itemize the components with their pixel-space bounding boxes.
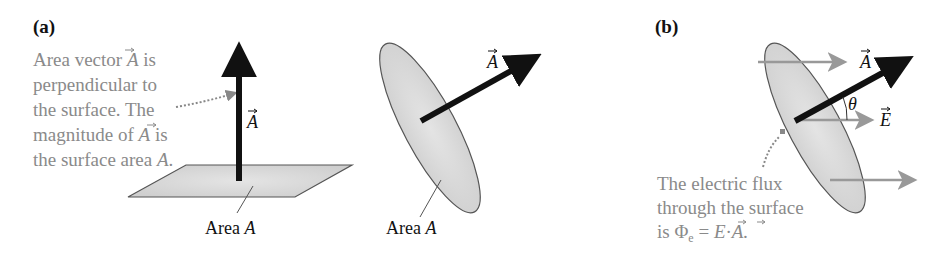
annotation-line-1: Area vector A is — [33, 49, 156, 70]
annotation-line-4: magnitude of A is — [33, 124, 168, 145]
flux-note-line-2: through the surface — [657, 197, 804, 218]
annotation-line-5: the surface area A. — [33, 149, 173, 170]
annotation-line-3: the surface. The — [33, 99, 155, 120]
flux-equation: is Φe = E·A. — [657, 221, 748, 245]
panel-a-label: (a) — [33, 16, 55, 38]
tilted-surface — [362, 32, 497, 224]
dotted-pointer-arrow — [176, 94, 232, 107]
panel-b-label: (b) — [655, 16, 678, 38]
panel-a-annotation: Area vector A is perpendicular to the su… — [33, 48, 232, 170]
vector-A-label-flat: A — [246, 112, 259, 132]
panel-b-figure: θ A E — [747, 32, 910, 224]
vector-A-label-b: A — [859, 52, 872, 72]
tilted-surface-figure: A Area A — [362, 32, 527, 238]
flux-diagram: (a) Area vector A is perpendicular to th… — [0, 0, 932, 253]
area-leader-line — [420, 180, 441, 217]
surface-element-marker — [780, 129, 785, 134]
area-label-tilted: Area A — [386, 218, 437, 238]
panel-b-annotation: The electric flux through the surface is… — [657, 173, 804, 245]
annotation-line-2: perpendicular to — [33, 74, 157, 95]
vector-E-label: E — [879, 110, 891, 130]
dotted-pointer-arrow — [763, 137, 779, 167]
flux-note-line-1: The electric flux — [657, 173, 783, 194]
flat-surface-figure: A Area A — [128, 58, 352, 238]
theta-label: θ — [848, 94, 857, 114]
vector-A-label-tilted: A — [486, 52, 499, 72]
area-label-flat: Area A — [205, 218, 256, 238]
angle-theta-arc — [843, 97, 847, 120]
